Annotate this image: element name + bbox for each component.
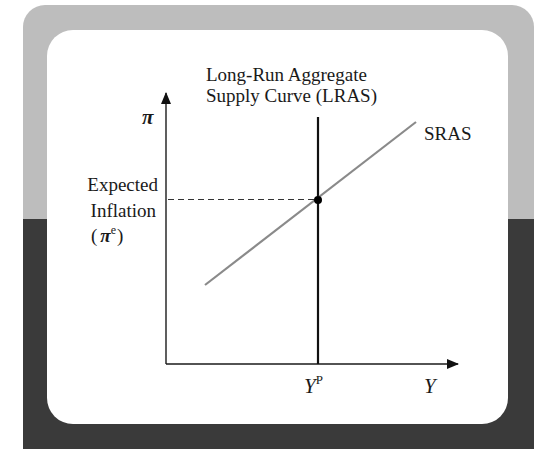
sras-label: SRAS — [424, 123, 472, 144]
equilibrium-point — [314, 196, 322, 204]
lras-sras-diagram: Long-Run Aggregate Supply Curve (LRAS) S… — [0, 0, 550, 463]
expected-inflation-label-line1: Expected — [87, 174, 158, 195]
paren-close: ) — [117, 225, 123, 247]
expected-inflation-label-line3: (πe) — [91, 223, 123, 247]
pi-symbol: π — [100, 225, 111, 246]
potential-output-superscript: P — [316, 372, 323, 387]
y-axis-label: π — [142, 105, 154, 129]
sras-line — [205, 122, 416, 285]
potential-output-label: YP — [304, 372, 323, 398]
superscript-e: e — [111, 223, 116, 237]
x-axis-label: Y — [424, 374, 438, 398]
lras-label-line2: Supply Curve (LRAS) — [206, 85, 377, 107]
expected-inflation-label-line2: Inflation — [91, 200, 157, 221]
paren-open: ( — [91, 225, 97, 247]
lras-label-line1: Long-Run Aggregate — [206, 64, 367, 85]
